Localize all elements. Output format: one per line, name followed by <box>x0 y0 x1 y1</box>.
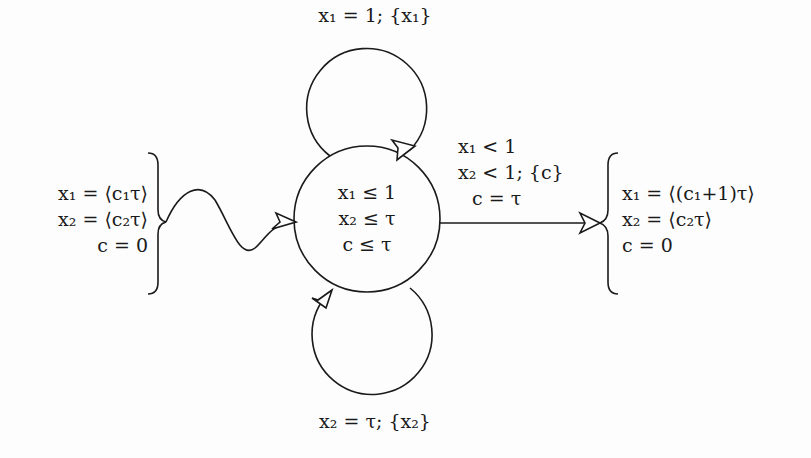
exit-conditions: x₁ = ⟨(c₁+1)τ⟩ x₂ = ⟨c₂τ⟩ c = 0 <box>622 180 807 258</box>
invariant-x2: x₂ ≤ τ <box>317 205 417 231</box>
guard-x1: x₁ < 1 <box>458 133 598 159</box>
entry-c: c = 0 <box>10 232 148 258</box>
bottom-loop-edge <box>312 288 432 394</box>
entry-brace <box>148 153 166 294</box>
top-loop-label: x₁ = 1; {x₁} <box>300 2 450 28</box>
exit-x1: x₁ = ⟨(c₁+1)τ⟩ <box>622 180 807 206</box>
entry-conditions: x₁ = ⟨c₁τ⟩ x₂ = ⟨c₂τ⟩ c = 0 <box>10 180 148 258</box>
exit-brace <box>600 153 618 294</box>
entry-wavy-edge <box>166 190 292 251</box>
top-loop-edge <box>307 49 427 156</box>
entry-arrowhead-icon <box>272 213 296 229</box>
top-loop-arrowhead-icon <box>392 140 415 160</box>
guard-x2: x₂ < 1; {c} <box>458 159 598 185</box>
diagram-canvas: x₁ = 1; {x₁} x₁ ≤ 1 x₂ ≤ τ c ≤ τ x₁ = ⟨c… <box>0 0 811 458</box>
exit-x2: x₂ = ⟨c₂τ⟩ <box>622 206 807 232</box>
entry-x2: x₂ = ⟨c₂τ⟩ <box>10 206 148 232</box>
exit-guard: x₁ < 1 x₂ < 1; {c} c = τ <box>458 133 598 211</box>
guard-c: c = τ <box>458 185 598 211</box>
bottom-loop-label: x₂ = τ; {x₂} <box>300 408 450 434</box>
bottom-loop-arrowhead-icon <box>312 290 332 308</box>
top-loop-text: x₁ = 1; {x₁} <box>318 4 431 26</box>
invariant-c: c ≤ τ <box>317 231 417 257</box>
state-invariants: x₁ ≤ 1 x₂ ≤ τ c ≤ τ <box>317 179 417 257</box>
entry-x1: x₁ = ⟨c₁τ⟩ <box>10 180 148 206</box>
exit-c: c = 0 <box>622 232 807 258</box>
bottom-loop-text: x₂ = τ; {x₂} <box>319 410 431 432</box>
invariant-x1: x₁ ≤ 1 <box>317 179 417 205</box>
